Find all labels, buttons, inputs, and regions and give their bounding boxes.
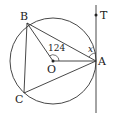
unknown-angle-x: x bbox=[88, 44, 93, 54]
point-T-dot bbox=[95, 14, 98, 17]
geometry-diagram: B C A O T 124 x bbox=[0, 0, 116, 119]
segment-AB bbox=[27, 23, 96, 61]
label-B: B bbox=[20, 10, 28, 23]
segment-AC bbox=[24, 61, 96, 93]
segment-BC bbox=[24, 23, 27, 93]
label-O: O bbox=[47, 63, 56, 76]
segment-OB bbox=[27, 23, 53, 61]
label-A: A bbox=[97, 55, 107, 68]
angle-label-124: 124 bbox=[48, 43, 65, 53]
label-T: T bbox=[100, 9, 108, 22]
label-C: C bbox=[15, 93, 23, 106]
